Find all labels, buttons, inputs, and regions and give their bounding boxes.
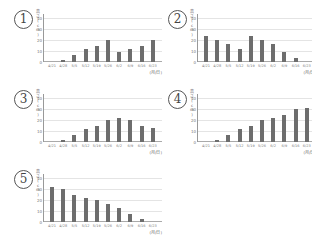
bar xyxy=(50,187,54,222)
x-tick-label: 5/19 xyxy=(91,144,103,148)
gridline xyxy=(44,109,162,110)
y-tick-label: 0 xyxy=(35,220,42,225)
y-tick-label: 20 xyxy=(189,118,196,123)
y-tick-label: 40 xyxy=(35,176,42,181)
y-axis-label: 高さ(cm) xyxy=(35,90,41,117)
y-tick-label: 20 xyxy=(189,38,196,43)
bar xyxy=(117,52,121,62)
bar xyxy=(106,120,110,142)
x-axis-unit-label: (月/日) xyxy=(150,69,162,75)
chart-panel-3: 3高さ(cm)0102030404/214/285/55/125/195/266… xyxy=(14,90,164,170)
x-tick-label: 6/23 xyxy=(147,224,159,228)
x-tick-label: 4/21 xyxy=(200,144,212,148)
bar xyxy=(72,135,76,142)
plot-area: 0102030404/214/285/55/125/195/266/26/96/… xyxy=(43,174,162,222)
y-tick-label: 30 xyxy=(189,107,196,112)
y-tick-label: 20 xyxy=(35,38,42,43)
chart-panel-1: 1高さ(cm)0102030404/214/285/55/125/195/266… xyxy=(14,10,164,90)
chart-number: 3 xyxy=(14,90,33,109)
y-tick-label: 30 xyxy=(35,27,42,32)
y-axis-label: 高さ(cm) xyxy=(189,10,195,37)
bar xyxy=(140,46,144,63)
x-tick-label: 4/28 xyxy=(57,224,69,228)
bar xyxy=(215,40,219,62)
x-tick-label: 5/26 xyxy=(102,64,114,68)
x-tick-label: 5/26 xyxy=(102,144,114,148)
y-tick-label: 0 xyxy=(189,60,196,65)
x-tick-label: 4/21 xyxy=(46,144,58,148)
gridline xyxy=(198,18,312,19)
plot-area: 0102030404/214/285/55/125/195/266/26/96/… xyxy=(43,94,162,142)
x-tick-label: 4/28 xyxy=(57,64,69,68)
y-tick-label: 10 xyxy=(189,129,196,134)
y-tick-label: 10 xyxy=(35,49,42,54)
bar xyxy=(84,129,88,142)
plot-area: 0102030404/214/285/55/125/195/266/26/96/… xyxy=(197,94,312,142)
bar xyxy=(151,128,155,142)
bar xyxy=(106,204,110,222)
y-tick-label: 10 xyxy=(189,49,196,54)
x-tick-label: 5/12 xyxy=(234,144,246,148)
gridline xyxy=(44,131,162,132)
bar xyxy=(117,118,121,142)
bar xyxy=(61,189,65,222)
x-tick-label: 5/19 xyxy=(91,64,103,68)
bar xyxy=(128,214,132,222)
gridline xyxy=(198,29,312,30)
y-tick-label: 30 xyxy=(35,187,42,192)
y-axis-label: 高さ(cm) xyxy=(35,10,41,37)
x-tick-label: 6/9 xyxy=(124,224,136,228)
bar xyxy=(282,115,286,143)
gridline xyxy=(44,29,162,30)
bar xyxy=(128,120,132,142)
x-tick-label: 4/28 xyxy=(211,144,223,148)
x-tick-label: 6/16 xyxy=(290,144,302,148)
x-tick-label: 6/23 xyxy=(301,64,312,68)
y-tick-label: 0 xyxy=(35,60,42,65)
x-tick-label: 6/23 xyxy=(301,144,312,148)
x-tick-label: 6/9 xyxy=(124,144,136,148)
plot-area: 0102030404/214/285/55/125/195/266/26/96/… xyxy=(197,14,312,62)
x-tick-label: 4/21 xyxy=(200,64,212,68)
chart-number: 5 xyxy=(14,170,33,189)
bar xyxy=(61,60,65,62)
x-tick-label: 5/12 xyxy=(80,224,92,228)
y-axis-label: 高さ(cm) xyxy=(35,170,41,197)
chart-number: 4 xyxy=(168,90,187,109)
x-tick-label: 5/26 xyxy=(256,64,268,68)
bar xyxy=(271,44,275,62)
x-tick-label: 6/23 xyxy=(147,144,159,148)
x-tick-label: 5/12 xyxy=(80,144,92,148)
x-tick-label: 4/21 xyxy=(46,64,58,68)
x-tick-label: 6/9 xyxy=(124,64,136,68)
bar xyxy=(238,49,242,62)
bar xyxy=(282,52,286,62)
bar xyxy=(72,195,76,223)
bar xyxy=(226,44,230,62)
bar xyxy=(128,49,132,62)
chart-number: 2 xyxy=(168,10,187,29)
bar xyxy=(260,40,264,62)
x-axis-unit-label: (月/日) xyxy=(150,149,162,155)
x-tick-label: 6/2 xyxy=(267,64,279,68)
x-axis-unit-label: (月/日) xyxy=(304,149,312,155)
y-tick-label: 40 xyxy=(35,16,42,21)
x-tick-label: 4/28 xyxy=(211,64,223,68)
bar xyxy=(84,198,88,222)
bar xyxy=(95,200,99,222)
bar xyxy=(249,36,253,62)
bar xyxy=(249,126,253,143)
y-tick-label: 10 xyxy=(35,129,42,134)
x-tick-label: 6/2 xyxy=(113,144,125,148)
x-axis-unit-label: (月/日) xyxy=(304,69,312,75)
x-tick-label: 6/16 xyxy=(290,64,302,68)
bar xyxy=(140,219,144,222)
gridline xyxy=(44,51,162,52)
bar xyxy=(260,120,264,142)
bar xyxy=(305,108,309,142)
x-tick-label: 6/23 xyxy=(147,64,159,68)
bar xyxy=(72,55,76,62)
bar xyxy=(95,126,99,143)
y-tick-label: 20 xyxy=(35,198,42,203)
plot-area: 0102030404/214/285/55/125/195/266/26/96/… xyxy=(43,14,162,62)
